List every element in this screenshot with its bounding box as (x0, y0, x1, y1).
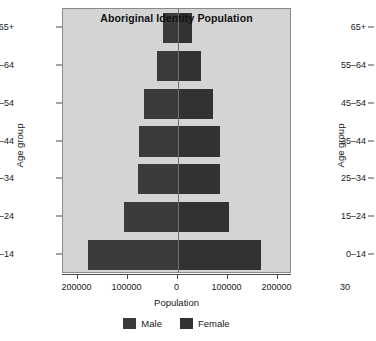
bar-male-5564 (157, 51, 178, 81)
y2-tick-label-65+: 65+ (310, 22, 366, 32)
x-tick-mark (227, 274, 228, 279)
x-axis-label: Population (62, 297, 291, 308)
bar-female-5564 (178, 51, 202, 81)
legend-label-male: Male (141, 318, 162, 329)
population-pyramid-chart: Aboriginal Identity Population Age group… (0, 0, 310, 341)
x-tick-mark (177, 274, 178, 279)
y-tick-label-65+: 65+ (0, 22, 14, 32)
x-tick-mark (127, 274, 128, 279)
y-tick-label-2534: 25–34 (0, 173, 14, 183)
zero-axis-line (178, 9, 179, 272)
y2-tick-mark (368, 178, 374, 179)
y-tick-mark (56, 26, 62, 27)
pyramid-row-1524 (63, 202, 290, 232)
bar-male-3544 (139, 126, 178, 156)
x-tick-mark (77, 274, 78, 279)
y2-tick-mark (368, 216, 374, 217)
legend-swatch-female (180, 318, 193, 329)
y-tick-mark (56, 102, 62, 103)
legend-label-female: Female (198, 318, 230, 329)
x-tick-label: 100000 (111, 282, 141, 292)
bar-female-014 (178, 240, 262, 270)
legend-item-male: Male (123, 318, 162, 329)
y-tick-mark (56, 178, 62, 179)
y2-tick-label-2534: 25–34 (310, 173, 366, 183)
bar-female-4554 (178, 89, 213, 119)
y-tick-label-4554: 45–54 (0, 98, 14, 108)
y-tick-label-1524: 15–24 (0, 211, 14, 221)
bar-male-014 (88, 240, 178, 270)
pyramid-row-5564 (63, 51, 290, 81)
x-tick-partial-2: 30 (340, 282, 350, 292)
y-tick-mark (56, 216, 62, 217)
y-tick-mark (56, 140, 62, 141)
x-tick-label: 100000 (211, 282, 241, 292)
y-tick-mark (56, 254, 62, 255)
y2-tick-mark (368, 64, 374, 65)
chart-legend: MaleFemale (62, 318, 291, 329)
legend-swatch-male (123, 318, 136, 329)
pyramid-row-2534 (63, 164, 290, 194)
bar-male-4554 (144, 89, 178, 119)
y2-tick-label-014: 0–14 (310, 249, 366, 259)
chart-title: Aboriginal Identity Population (62, 12, 291, 24)
y-tick-label-5564: 55–64 (0, 60, 14, 70)
y2-tick-mark (368, 254, 374, 255)
pyramid-row-3544 (63, 126, 290, 156)
y2-tick-label-1524: 15–24 (310, 211, 366, 221)
y-axis-label: Age group (14, 106, 25, 186)
y2-tick-label-5564: 55–64 (310, 60, 366, 70)
bar-male-1524 (124, 202, 178, 232)
y2-tick-mark (368, 140, 374, 141)
x-tick-mark (277, 274, 278, 279)
y-tick-label-014: 0–14 (0, 249, 14, 259)
y-tick-label-3544: 35–44 (0, 136, 14, 146)
y2-tick-mark (368, 26, 374, 27)
pyramid-row-4554 (63, 89, 290, 119)
x-tick-label: 200000 (261, 282, 291, 292)
y-tick-mark (56, 64, 62, 65)
bar-female-3544 (178, 126, 220, 156)
plot-panel (62, 8, 291, 273)
bar-male-2534 (138, 164, 178, 194)
y2-tick-mark (368, 102, 374, 103)
bar-female-2534 (178, 164, 220, 194)
x-tick-label: 0 (174, 282, 179, 292)
adjacent-chart-partial: Age group 30 65+55–6445–5435–4425–3415–2… (310, 0, 376, 341)
y2-tick-label-3544: 35–44 (310, 136, 366, 146)
pyramid-row-014 (63, 240, 290, 270)
bar-female-1524 (178, 202, 229, 232)
y2-tick-label-4554: 45–54 (310, 98, 366, 108)
legend-item-female: Female (180, 318, 230, 329)
x-tick-label: 200000 (61, 282, 91, 292)
